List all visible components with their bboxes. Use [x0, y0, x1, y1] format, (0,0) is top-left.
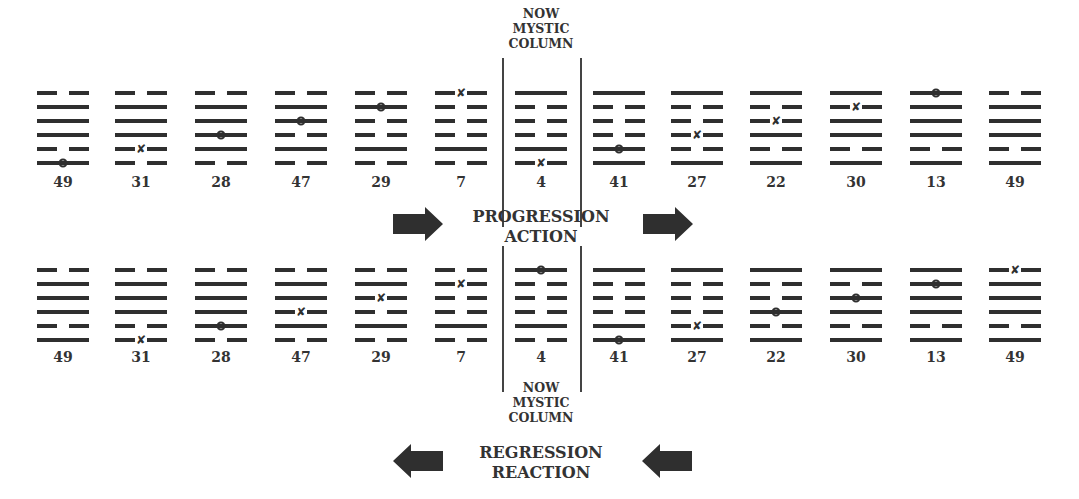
hexagram: ✘: [515, 91, 567, 171]
yang-line: [750, 91, 802, 95]
yang-line: [515, 91, 567, 95]
circle-mark-icon: [217, 131, 226, 140]
hexagram-number: 4: [515, 174, 567, 190]
yin-line: [435, 105, 487, 109]
yang-line: [195, 119, 247, 123]
yang-line: [275, 147, 327, 151]
hexagram-number: 27: [671, 349, 723, 365]
yin-line: [115, 161, 167, 165]
yin-line: ✘: [830, 105, 882, 109]
yin-line: ✘: [435, 91, 487, 95]
yin-line: [671, 282, 723, 286]
yin-line: ✘: [671, 133, 723, 137]
hexagram: ✘: [989, 268, 1041, 348]
yang-line: [830, 310, 882, 314]
yin-line: [37, 147, 89, 151]
yang-line: [671, 161, 723, 165]
hexagram-number: 49: [37, 174, 89, 190]
hexagram-number: 28: [195, 174, 247, 190]
yang-line: [37, 296, 89, 300]
top-mystic-column-caption: NOW MYSTIC COLUMN: [491, 6, 591, 51]
yang-line: [37, 133, 89, 137]
circle-mark-icon: [932, 280, 941, 289]
yang-line: [275, 282, 327, 286]
arrow-right-icon: [643, 207, 695, 241]
yin-line: [750, 324, 802, 328]
hexagram: ✘: [830, 91, 882, 171]
yin-line: [435, 310, 487, 314]
yin-line: [750, 105, 802, 109]
yin-line: [275, 133, 327, 137]
yin-line: [593, 282, 645, 286]
yang-line: [830, 268, 882, 272]
yin-line: [37, 91, 89, 95]
yang-line: [195, 324, 247, 328]
yang-line: [910, 268, 962, 272]
yang-line: [37, 282, 89, 286]
yang-line: [910, 296, 962, 300]
yin-line: [515, 133, 567, 137]
yang-line: [593, 338, 645, 342]
yang-line: [830, 91, 882, 95]
hexagram: [910, 268, 962, 348]
yang-line: [830, 338, 882, 342]
yin-line: [275, 338, 327, 342]
yang-line: [195, 147, 247, 151]
cross-mark-icon: ✘: [375, 292, 387, 304]
yin-line: [593, 133, 645, 137]
circle-mark-icon: [615, 145, 624, 154]
hexagram: ✘: [435, 91, 487, 171]
hexagram: [593, 268, 645, 348]
yin-line: [515, 119, 567, 123]
yin-line: [910, 147, 962, 151]
cross-mark-icon: ✘: [135, 143, 147, 155]
yin-line: [989, 324, 1041, 328]
hexagram: ✘: [750, 91, 802, 171]
hexagram: [355, 91, 407, 171]
yin-line: [37, 268, 89, 272]
arrow-left-icon: [642, 444, 694, 478]
yin-line: [989, 91, 1041, 95]
hexagram-number: 27: [671, 174, 723, 190]
yin-line: [435, 119, 487, 123]
yin-line: [989, 147, 1041, 151]
yang-line: [593, 161, 645, 165]
action-label: ACTION: [466, 227, 616, 247]
hexagram: [989, 91, 1041, 171]
hexagram-number: 41: [593, 174, 645, 190]
yang-line: [275, 324, 327, 328]
caption-line: NOW: [491, 6, 591, 21]
yang-line: [115, 133, 167, 137]
yang-line: [515, 147, 567, 151]
yang-line: [195, 133, 247, 137]
hexagram-number: 49: [37, 349, 89, 365]
yang-line: [115, 296, 167, 300]
hexagram-number: 13: [910, 349, 962, 365]
yin-line: [355, 91, 407, 95]
reaction-label: REACTION: [466, 463, 616, 483]
yin-line: [195, 91, 247, 95]
yang-line: [910, 161, 962, 165]
regression-reaction-label: REGRESSION REACTION: [466, 443, 616, 483]
yin-line: ✘: [115, 338, 167, 342]
hexagram-number: 13: [910, 174, 962, 190]
yin-line: [355, 133, 407, 137]
yang-line: [37, 105, 89, 109]
yang-line: [671, 268, 723, 272]
circle-mark-icon: [59, 159, 68, 168]
cross-mark-icon: ✘: [691, 129, 703, 141]
hexagram: ✘: [435, 268, 487, 348]
yang-line: [115, 105, 167, 109]
hexagram: ✘: [275, 268, 327, 348]
yin-line: [671, 105, 723, 109]
yin-line: ✘: [275, 310, 327, 314]
yin-line: [671, 147, 723, 151]
yin-line: [593, 296, 645, 300]
circle-mark-icon: [537, 266, 546, 275]
yin-line: [593, 105, 645, 109]
hexagram-number: 30: [830, 174, 882, 190]
yang-line: [355, 324, 407, 328]
yin-line: [275, 161, 327, 165]
yang-line: [989, 282, 1041, 286]
yin-line: [830, 147, 882, 151]
